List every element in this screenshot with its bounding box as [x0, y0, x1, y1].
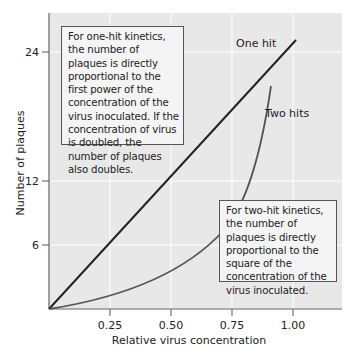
- x-tick-label: 0.50: [159, 319, 184, 332]
- y-tick-label: 12: [25, 175, 39, 188]
- x-axis-title: Relative virus concentration: [112, 334, 266, 347]
- y-axis-title: Number of plaques: [14, 110, 27, 215]
- y-tick-label: 24: [25, 46, 39, 59]
- x-tick-label: 1.00: [281, 319, 306, 332]
- one-hit-annotation: For one-hit kinetics, the number of plaq…: [61, 26, 184, 145]
- y-tick-label: 6: [32, 239, 39, 252]
- one-hit-label: One hit: [236, 37, 277, 50]
- two-hits-label: Two hits: [264, 107, 309, 120]
- x-tick-label: 0.75: [220, 319, 245, 332]
- two-hit-annotation: For two-hit kinetics, the number of plaq…: [219, 200, 337, 282]
- x-tick-label: 0.25: [98, 319, 123, 332]
